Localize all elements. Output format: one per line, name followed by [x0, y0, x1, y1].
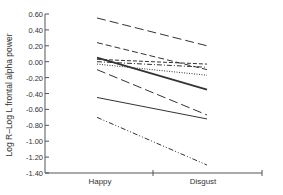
y-tick-label: -1.00	[26, 137, 43, 146]
y-tick-label: 0.20	[28, 42, 43, 51]
series-line-subject-2	[97, 43, 207, 70]
y-axis: 0.600.400.200.00-0.20-0.40-0.60-0.80-1.0…	[26, 10, 49, 178]
x-axis: HappyDisgust	[45, 170, 262, 186]
y-axis-label: Log R–Log L frontal alpha power	[4, 33, 14, 156]
x-tick-label: Happy	[88, 177, 111, 186]
y-tick-label: -1.40	[26, 169, 43, 178]
series-line-subject-8	[97, 97, 207, 118]
y-tick-label: -0.80	[26, 121, 43, 130]
y-axis-title: Log R–Log L frontal alpha power	[4, 33, 14, 156]
x-tick-label: Disgust	[190, 177, 217, 186]
y-tick-label: -1.20	[26, 153, 43, 162]
series-line-subject-1	[97, 18, 207, 46]
y-tick-label: 0.60	[28, 10, 43, 19]
y-tick-label: 0.00	[28, 58, 43, 67]
series-line-subject-9	[97, 117, 207, 165]
y-tick-label: -0.60	[26, 105, 43, 114]
y-tick-label: -0.40	[26, 90, 43, 99]
y-tick-label: 0.40	[28, 26, 43, 35]
series-line-subject-3	[97, 58, 207, 90]
y-tick-label: -0.20	[26, 74, 43, 83]
line-chart: Log R–Log L frontal alpha power 0.600.40…	[0, 0, 283, 195]
series-lines	[97, 18, 207, 165]
